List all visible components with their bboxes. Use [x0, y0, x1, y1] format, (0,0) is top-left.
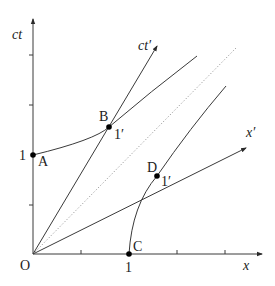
point-a-label: A [38, 154, 49, 169]
spacetime-diagram: ct x ct′ x′ O 1 1 A B 1′ C D 1′ [0, 0, 275, 286]
point-c-label: C [133, 239, 142, 254]
origin-label: O [20, 258, 30, 273]
light-line [33, 48, 236, 254]
x-prime-axis-label: x′ [245, 125, 256, 140]
point-b-label: B [99, 109, 108, 124]
point-c [126, 251, 132, 257]
ct-axis-ticks [29, 55, 33, 205]
x-axis-ticks [81, 250, 225, 254]
point-d-label: D [147, 160, 157, 175]
ct-unit-tick-label: 1 [19, 148, 26, 163]
point-b [106, 124, 112, 130]
ct-axis-label: ct [12, 27, 23, 42]
spacelike-hyperbola [129, 86, 226, 254]
x-axis-label: x [242, 258, 250, 273]
ct-prime-axis-label: ct′ [138, 38, 152, 53]
x-unit-tick-label: 1 [125, 260, 132, 275]
point-b-unit-label: 1′ [114, 127, 124, 142]
point-a [30, 152, 36, 158]
point-d-unit-label: 1′ [161, 174, 171, 189]
